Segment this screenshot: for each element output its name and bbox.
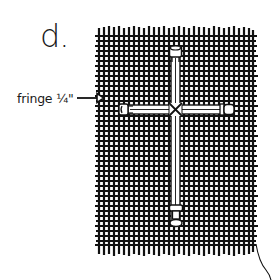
- fringe-label: fringe ¼": [17, 91, 74, 106]
- cross-vertical-twig: [170, 46, 183, 227]
- fringe-callout: fringe ¼": [17, 89, 105, 107]
- step-label: d.: [40, 20, 68, 52]
- craft-illustration: d. fringe ¼": [0, 0, 278, 280]
- arrow-right-icon: [77, 92, 105, 104]
- cross-center-wrap: [169, 103, 182, 116]
- loose-thread: [256, 244, 271, 280]
